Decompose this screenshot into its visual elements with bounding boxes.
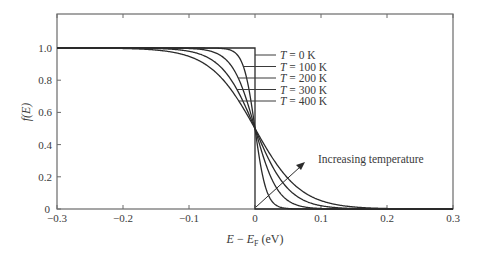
- legend-label-200k: T = 200 K: [280, 72, 328, 84]
- y-axis-label: f(E): [19, 103, 33, 122]
- x-tick-label: −0.3: [47, 212, 67, 224]
- y-tick-label: 0.4: [38, 139, 52, 151]
- x-tick-label: 0.3: [446, 212, 460, 224]
- annotation-text: Increasing temperature: [318, 153, 424, 166]
- legend-label-0k: T = 0 K: [280, 49, 316, 61]
- legend-label-400k: T = 400 K: [280, 95, 328, 107]
- y-tick-label: 0: [45, 203, 51, 215]
- fermi-dirac-chart: −0.3−0.2−0.100.10.20.3 00.20.40.60.81.0 …: [0, 0, 481, 254]
- x-tick-label: 0.1: [314, 212, 328, 224]
- y-tick-label: 0.2: [38, 171, 52, 183]
- legend-label-100k: T = 100 K: [280, 61, 328, 73]
- x-tick-label: 0.2: [380, 212, 394, 224]
- x-tick-label: −0.1: [179, 212, 199, 224]
- x-tick-label: 0: [252, 212, 258, 224]
- curves: [57, 48, 453, 209]
- y-tick-label: 1.0: [38, 42, 52, 54]
- y-tick-label: 0.8: [38, 74, 52, 86]
- x-tick-label: −0.2: [113, 212, 133, 224]
- x-axis-label: E − EF (eV): [226, 232, 284, 248]
- legend-label-300k: T = 300 K: [280, 84, 328, 96]
- y-tick-label: 0.6: [38, 106, 52, 118]
